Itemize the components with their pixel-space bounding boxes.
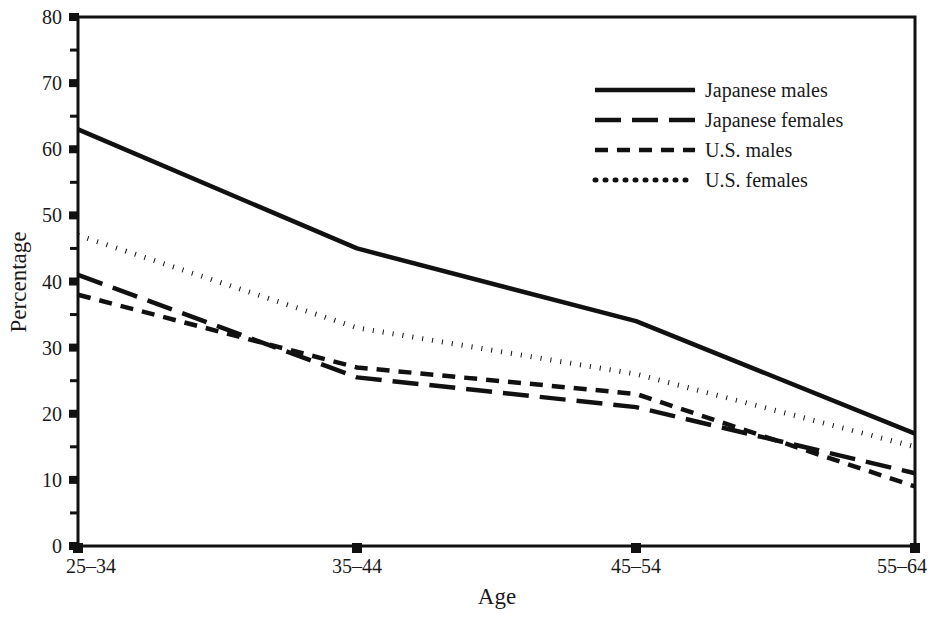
y-tick-major xyxy=(69,13,79,21)
y-tick-label: 70 xyxy=(42,72,62,94)
y-tick-label: 20 xyxy=(42,403,62,425)
y-axis-title: Percentage xyxy=(6,232,31,333)
series-line-u-s-males xyxy=(78,295,915,487)
legend-label: Japanese females xyxy=(705,109,843,132)
y-tick-label: 10 xyxy=(42,469,62,491)
x-tick-major xyxy=(910,543,920,553)
y-tick-label: 30 xyxy=(42,337,62,359)
y-tick-label: 60 xyxy=(42,138,62,160)
y-tick-minor xyxy=(70,115,79,118)
y-tick-major xyxy=(69,79,79,87)
x-tick-label: 35–44 xyxy=(332,555,382,577)
y-tick-minor xyxy=(70,313,79,316)
legend-label: U.S. females xyxy=(705,169,808,191)
legend-label: Japanese males xyxy=(705,79,828,102)
y-tick-major xyxy=(69,145,79,153)
y-tick-minor xyxy=(70,49,79,52)
y-tick-minor xyxy=(70,181,79,184)
x-axis-tick-labels: 25–3435–4445–5455–64 xyxy=(66,555,927,577)
x-tick-label: 55–64 xyxy=(877,555,927,577)
y-tick-major xyxy=(69,476,79,484)
y-tick-minor xyxy=(70,247,79,250)
legend-label: U.S. males xyxy=(705,139,792,161)
x-tick-major xyxy=(352,543,362,553)
y-tick-major xyxy=(69,344,79,352)
y-tick-major xyxy=(69,410,79,418)
y-tick-label: 80 xyxy=(42,6,62,28)
x-axis-title: Age xyxy=(478,584,516,609)
y-tick-label: 50 xyxy=(42,204,62,226)
chart-legend: Japanese malesJapanese femalesU.S. males… xyxy=(595,79,843,191)
chart-figure: 01020304050607080 25–3435–4445–5455–64 J… xyxy=(0,0,945,620)
x-tick-label: 25–34 xyxy=(66,555,116,577)
y-tick-major xyxy=(69,211,79,219)
y-tick-minor xyxy=(70,511,79,514)
y-tick-label: 0 xyxy=(52,535,62,557)
y-tick-minor xyxy=(70,445,79,448)
y-tick-major xyxy=(69,278,79,286)
line-chart-canvas: 01020304050607080 25–3435–4445–5455–64 J… xyxy=(0,0,945,620)
x-tick-major xyxy=(631,543,641,553)
x-tick-label: 45–54 xyxy=(611,555,661,577)
y-axis-tick-labels: 01020304050607080 xyxy=(42,6,62,557)
series-line-u-s-females xyxy=(78,235,915,447)
y-tick-minor xyxy=(70,379,79,382)
x-tick-major xyxy=(73,543,83,553)
y-tick-label: 40 xyxy=(42,271,62,293)
